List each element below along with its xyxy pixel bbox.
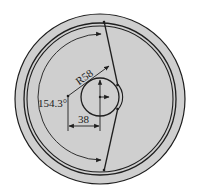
offset-label: 38	[78, 113, 90, 125]
center-point	[99, 96, 101, 98]
plate-diagram: R58 154.3° 38	[0, 0, 197, 191]
chord-node-top	[103, 21, 106, 24]
chord-node-bottom	[103, 169, 106, 172]
tangent-node-upper	[116, 84, 119, 87]
angle-label: 154.3°	[38, 97, 67, 109]
tangent-node-lower	[116, 108, 119, 111]
